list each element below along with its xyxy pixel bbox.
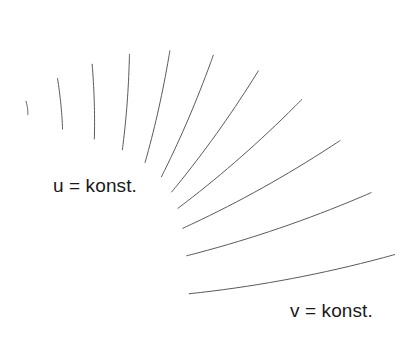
v-constant-curve: [189, 255, 394, 294]
v-constant-curve: [58, 79, 63, 129]
v-constant-curve-family: [26, 51, 395, 294]
figure-canvas: u = konst. v = konst.: [0, 0, 409, 338]
v-constant-curve: [178, 100, 302, 209]
v-constant-curve: [172, 71, 259, 192]
v-constant-curve: [26, 101, 28, 114]
v-constant-curve: [145, 51, 170, 163]
v-constant-curve: [187, 193, 371, 256]
coordinate-mesh: [0, 0, 409, 338]
v-constant-curve: [92, 64, 94, 139]
label-v-konst: v = konst.: [290, 301, 373, 320]
v-constant-curve: [161, 55, 213, 177]
v-constant-curve: [122, 55, 129, 150]
label-u-konst: u = konst.: [53, 176, 137, 195]
